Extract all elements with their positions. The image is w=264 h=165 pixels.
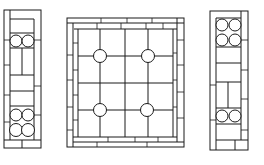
jewel-circle <box>10 35 22 47</box>
jewel-circle <box>229 34 241 46</box>
jewel-circle <box>94 50 107 63</box>
right-sidelight-panel <box>210 11 248 150</box>
jewel-circle <box>142 50 155 63</box>
jewel-circle <box>10 109 22 121</box>
jewel-circle <box>229 110 241 122</box>
jewel-circle <box>229 19 241 31</box>
jewel-circle <box>141 104 154 117</box>
jewel-circle <box>94 104 107 117</box>
jewel-circle <box>216 110 228 122</box>
jewel-circle <box>22 35 34 47</box>
jewel-circle <box>216 19 228 31</box>
leaded-glass-diagram: Leaded glass window panels <box>0 0 264 165</box>
jewel-circle <box>10 124 23 137</box>
jewel-circle <box>216 34 228 46</box>
jewel-circle <box>22 109 34 121</box>
center-panel <box>67 18 184 147</box>
jewel-circle <box>22 124 35 137</box>
left-sidelight-panel <box>4 10 41 148</box>
